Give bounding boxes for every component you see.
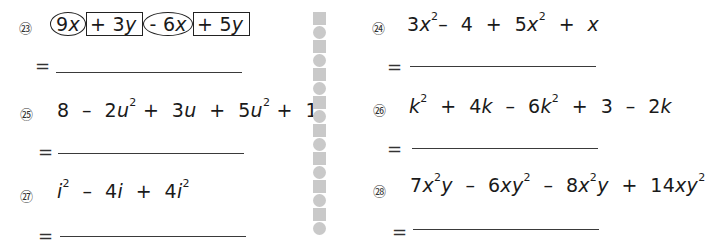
expression: k2 + 4k – 6k2 + 3 – 2k [409, 95, 672, 117]
variable: x [175, 13, 187, 35]
equals-sign: = [387, 138, 402, 159]
problem-number: ㉘ [373, 181, 386, 200]
expression: i2 – 4i + 4i2 [57, 180, 190, 202]
variable: y [232, 13, 244, 35]
divider-square [313, 68, 326, 81]
divider-square [313, 152, 326, 165]
equals-sign: = [387, 56, 402, 77]
problem-number: ㉗ [20, 186, 33, 205]
divider-square [313, 40, 326, 53]
coefficient: - 6 [149, 13, 175, 35]
problem-number: ㉕ [20, 104, 33, 123]
boxed-term: + 5y [193, 12, 251, 36]
expression: 9x+ 3y- 6x+ 5y [50, 12, 250, 36]
divider-circle [313, 222, 326, 235]
divider-square [313, 124, 326, 137]
divider-circle [313, 26, 326, 39]
equals-sign: = [392, 221, 407, 242]
expression: 7x2y – 6xy2 – 8x2y + 14xy2 [410, 174, 705, 196]
answer-line[interactable] [413, 229, 599, 230]
problem-number: ㉓ [19, 18, 32, 37]
divider-circle [313, 138, 326, 151]
divider-circle [313, 54, 326, 67]
variable: y [125, 13, 137, 35]
expression: 3x2– 4 + 5x2 + x [407, 13, 599, 35]
problem-number: ㉔ [372, 18, 385, 37]
circled-term: 9x [50, 12, 86, 36]
divider-circle [313, 166, 326, 179]
divider-circle [313, 110, 326, 123]
divider-square [313, 12, 326, 25]
divider-square [313, 96, 326, 109]
coefficient: + 5 [197, 13, 232, 35]
answer-line[interactable] [410, 66, 596, 67]
circled-term: - 6x [143, 12, 192, 36]
divider-circle [313, 82, 326, 95]
coefficient: 9 [56, 13, 68, 35]
answer-line[interactable] [412, 148, 598, 149]
equals-sign: = [35, 55, 50, 76]
variable: x [68, 13, 80, 35]
equals-sign: = [38, 225, 53, 246]
answer-line[interactable] [56, 72, 242, 73]
answer-line[interactable] [60, 236, 246, 237]
decorative-divider [313, 12, 327, 236]
boxed-term: + 3y [86, 12, 144, 36]
equals-sign: = [38, 141, 53, 162]
divider-square [313, 208, 326, 221]
problem-number: ㉖ [373, 100, 386, 119]
answer-line[interactable] [58, 153, 244, 154]
divider-circle [313, 194, 326, 207]
expression: 8 – 2u2 + 3u + 5u2 + 1 [57, 99, 318, 121]
coefficient: + 3 [90, 13, 125, 35]
divider-square [313, 180, 326, 193]
